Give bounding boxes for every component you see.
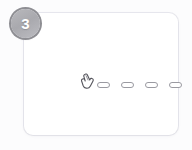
pointing-hand-cursor[interactable]: [81, 73, 95, 91]
step-badge: 3: [11, 9, 40, 38]
dash-pill[interactable]: [97, 82, 110, 88]
dash-sequence: [59, 73, 174, 101]
dash-pill[interactable]: [169, 82, 182, 88]
step-card: [24, 13, 178, 135]
dash-pill[interactable]: [145, 82, 158, 88]
dash-pill[interactable]: [121, 82, 134, 88]
step-badge-label: 3: [21, 16, 29, 31]
